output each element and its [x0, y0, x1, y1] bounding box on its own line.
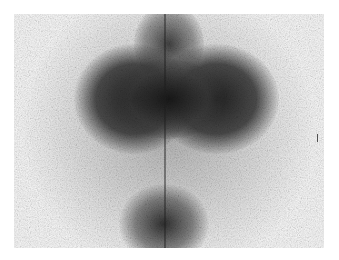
scan-image	[14, 14, 324, 248]
grain-texture	[14, 14, 324, 248]
